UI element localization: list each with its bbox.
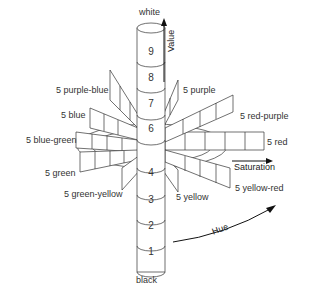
hue-label-purple: 5 purple	[183, 86, 216, 95]
value-number-3: 3	[144, 195, 158, 205]
white-label: white	[139, 8, 160, 17]
value-number-6: 6	[144, 124, 158, 134]
hue-label-blue-green: 5 blue-green	[26, 136, 77, 145]
value-number-7: 7	[144, 99, 158, 109]
value-number-4: 4	[144, 168, 158, 178]
hue-label-purple-blue: 5 purple-blue	[56, 86, 109, 95]
hue-label-blue: 5 blue	[61, 111, 86, 120]
hue-label-red-purple: 5 red-purple	[240, 112, 289, 121]
value-number-2: 2	[144, 221, 158, 231]
value-column	[137, 23, 165, 277]
hue-label-red: 5 red	[267, 138, 288, 147]
hue-label-yellow: 5 yellow	[176, 193, 209, 202]
saturation-axis-label: Saturation	[234, 163, 275, 172]
black-label: black	[136, 276, 157, 285]
hue-label-yellow-red: 5 yellow-red	[235, 184, 284, 193]
hue-label-green-yellow: 5 green-yellow	[64, 190, 123, 199]
hue-label-green: 5 green	[45, 169, 76, 178]
value-axis-label: Value	[167, 30, 176, 52]
value-number-1: 1	[144, 247, 158, 257]
value-number-8: 8	[144, 73, 158, 83]
value-number-9: 9	[144, 47, 158, 57]
